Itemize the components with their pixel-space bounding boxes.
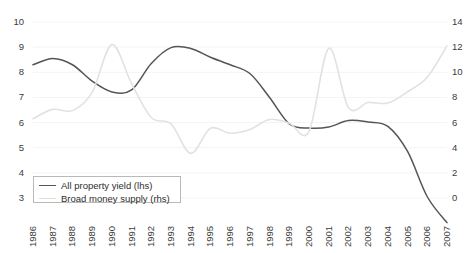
x-axis-tick-1997: 1997: [245, 226, 255, 247]
x-axis-tick-1990: 1990: [107, 226, 117, 247]
x-axis-tick-1989: 1989: [87, 226, 97, 247]
gridlines: [33, 22, 447, 198]
legend-entry: All property yield (lhs): [39, 179, 174, 192]
x-axis-tick-2005: 2005: [403, 226, 413, 247]
x-axis-tick-1991: 1991: [127, 226, 137, 247]
x-axis-tick-1988: 1988: [67, 226, 77, 247]
left-axis-tick-8: 8: [2, 67, 24, 77]
legend-label: All property yield (lhs): [61, 180, 152, 191]
right-axis-tick-12: 12: [452, 42, 474, 52]
x-axis-tick-2003: 2003: [363, 226, 373, 247]
x-axis-tick-2004: 2004: [383, 226, 393, 247]
left-axis-tick-10: 10: [2, 17, 24, 27]
x-axis-tick-1986: 1986: [28, 226, 38, 247]
x-axis-tick-1993: 1993: [166, 226, 176, 247]
x-axis-tick-1994: 1994: [186, 226, 196, 247]
left-axis-tick-3: 3: [2, 193, 24, 203]
x-axis-tick-1998: 1998: [265, 226, 275, 247]
x-axis-tick-1987: 1987: [48, 226, 58, 247]
right-axis-tick-6: 6: [452, 118, 474, 128]
x-axis-tick-2001: 2001: [324, 226, 334, 247]
left-axis-tick-5: 5: [2, 143, 24, 153]
x-axis-tick-1999: 1999: [284, 226, 294, 247]
chart-container: 345678910 02468101214 198619871988198919…: [0, 0, 474, 253]
x-axis-tick-2000: 2000: [304, 226, 314, 247]
left-axis-tick-9: 9: [2, 42, 24, 52]
right-axis-tick-10: 10: [452, 67, 474, 77]
right-axis-tick-4: 4: [452, 143, 474, 153]
x-axis-tick-1992: 1992: [146, 226, 156, 247]
left-axis-tick-6: 6: [2, 118, 24, 128]
right-axis-tick-14: 14: [452, 17, 474, 27]
x-axis-tick-1996: 1996: [225, 226, 235, 247]
legend-entry: Broad money supply (rhs): [39, 192, 174, 205]
legend-line-swatch-icon: [39, 185, 56, 186]
left-axis-tick-7: 7: [2, 92, 24, 102]
x-axis-tick-1995: 1995: [205, 226, 215, 247]
chart-legend: All property yield (lhs)Broad money supp…: [33, 176, 181, 203]
chart-plot-area: [0, 0, 474, 253]
right-axis-tick-8: 8: [452, 92, 474, 102]
right-axis-tick-0: 0: [452, 193, 474, 203]
x-axis-tick-2006: 2006: [422, 226, 432, 247]
series-line: [33, 45, 447, 154]
legend-line-swatch-icon: [39, 198, 56, 199]
x-axis-tick-2007: 2007: [442, 226, 452, 247]
x-axis-tick-2002: 2002: [343, 226, 353, 247]
left-axis-tick-4: 4: [2, 168, 24, 178]
legend-label: Broad money supply (rhs): [61, 193, 170, 204]
right-axis-tick-2: 2: [452, 168, 474, 178]
